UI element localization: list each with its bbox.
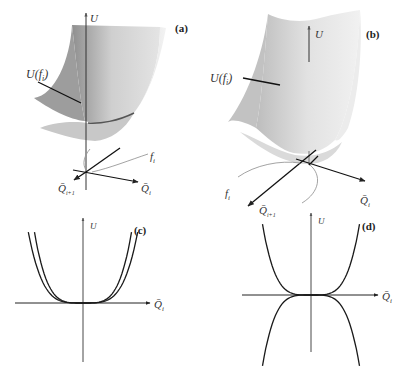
axis-b-right-label: Q̄i [360, 194, 370, 209]
axis-a-right-label: Q̄i [141, 182, 151, 197]
curve-b-label: fi [225, 187, 230, 202]
axis-c-vertical-label: U [90, 221, 97, 231]
curve-a-fi-left [84, 149, 90, 170]
axis-a-vertical-label: U [90, 12, 99, 24]
curve-b-fi [238, 162, 300, 177]
axis-b-right [296, 159, 365, 181]
axis-b-vertical-label: U [315, 28, 324, 40]
surface-b-label: U(fi) [210, 71, 232, 87]
panel-c-tag: (c) [134, 224, 147, 237]
axis-a-left-label: Q̄i+1 [58, 182, 75, 196]
panel-b: U U(fi) fi Q̄i+1 Q̄i (b) [210, 10, 380, 218]
curve-a-fi [92, 154, 148, 172]
panel-a-tag: (a) [175, 22, 188, 35]
panel-c: U Q̄i (c) [15, 218, 164, 362]
axis-d-horizontal-label: Q̄i [382, 290, 392, 305]
curve-a-label: fi [150, 150, 155, 165]
figure: U U(fi) fi Q̄i+1 Q̄i (a) U U(fi) fi Q̄i [0, 0, 403, 375]
axis-b-left-label: Q̄i+1 [259, 204, 276, 218]
axis-c-horizontal-label: Q̄i [154, 298, 164, 313]
panel-d: U Q̄i (d) [242, 213, 392, 366]
panel-b-tag: (b) [366, 28, 380, 41]
curve-b-fi-2 [302, 165, 318, 203]
axis-a-diagonal [86, 148, 120, 172]
panel-d-tag: (d) [362, 220, 376, 233]
panel-a: U U(fi) fi Q̄i+1 Q̄i (a) [26, 12, 188, 197]
surface-a-back [72, 25, 160, 123]
axis-a-left [74, 172, 86, 180]
axis-d-vertical-label: U [318, 216, 325, 226]
axis-a-right [73, 170, 138, 182]
surface-a-label: U(fi) [26, 67, 48, 83]
